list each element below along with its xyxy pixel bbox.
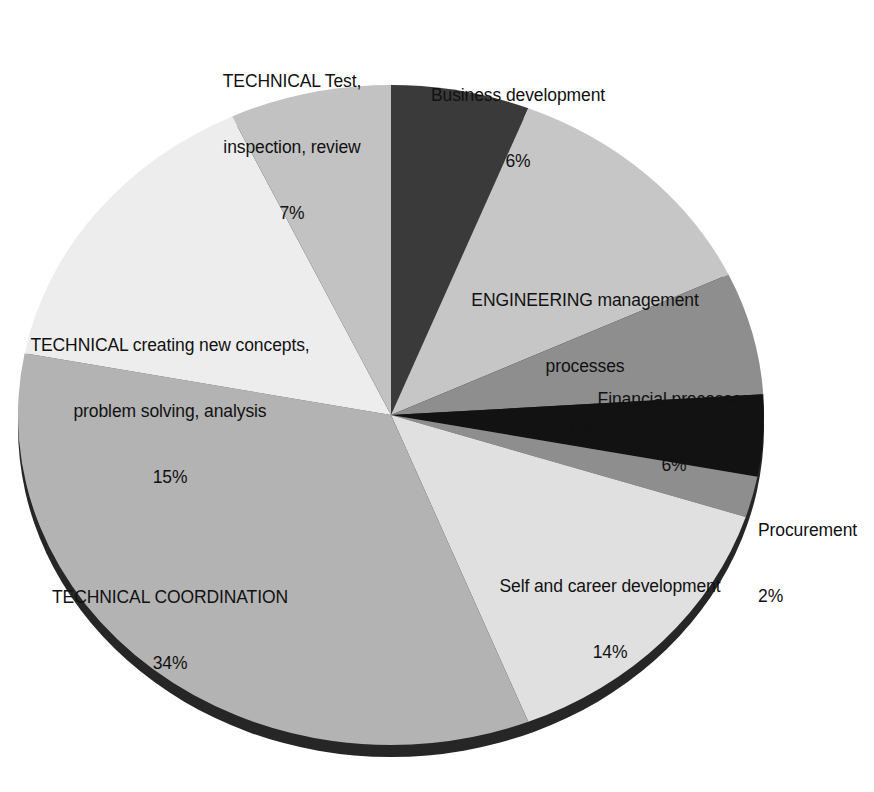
slice-label-line1: Procurement [758, 519, 874, 541]
slice-label-line1: Financial processes [566, 388, 782, 410]
slice-label-percent: 14% [484, 641, 736, 663]
slice-label-procurement: Procurement 2% [758, 475, 874, 651]
slice-label-percent: 2% [758, 585, 874, 607]
slice-label-technical-test-inspection-review: TECHNICAL Test, inspection, review 7% [186, 26, 398, 269]
slice-label-line2: inspection, review [186, 136, 398, 158]
slice-label-self-and-career-development: Self and career development 14% [484, 531, 736, 707]
slice-label-percent: 7% [186, 202, 398, 224]
slice-label-financial-processes: Financial processes 6% [566, 344, 782, 520]
slice-label-percent: 6% [566, 454, 782, 476]
slice-label-line1: TECHNICAL Test, [186, 70, 398, 92]
slice-label-line1: TECHNICAL creating new concepts, [20, 334, 320, 356]
slice-label-line1: TECHNICAL COORDINATION [28, 586, 312, 608]
slice-label-percent: 34% [28, 652, 312, 674]
slice-label-business-development: Business development 6% [395, 40, 641, 216]
slice-label-line1: ENGINEERING management [460, 289, 710, 311]
slice-label-line1: Business development [395, 84, 641, 106]
slice-label-technical-creating-new-concepts: TECHNICAL creating new concepts, problem… [20, 290, 320, 533]
slice-label-line2: problem solving, analysis [20, 400, 320, 422]
slice-label-technical-coordination: TECHNICAL COORDINATION 34% [28, 542, 312, 718]
slice-label-line1: Self and career development [484, 575, 736, 597]
slice-label-percent: 6% [395, 150, 641, 172]
pie-chart: TECHNICAL Test, inspection, review 7% Bu… [0, 0, 874, 792]
slice-label-percent: 15% [20, 466, 320, 488]
